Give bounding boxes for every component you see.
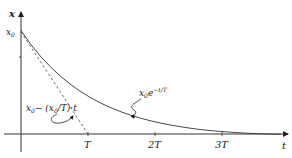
y-intercept-label: x0 [6,27,15,38]
x-axis-label: t [282,140,287,151]
tick-label-T: T [84,139,92,150]
tick-label-3T: 3T [215,139,229,150]
y-axis-label: x [8,8,16,19]
tangent-line [21,32,88,134]
curve-label: x0e−t/T [139,86,168,99]
curve-label-pointer [132,99,141,118]
tangent-label: x0− (x0/T)·t [26,103,77,114]
tick-label-2T: 2T [147,139,162,150]
tangent-label-pointer [51,114,73,123]
exponential-curve [21,31,281,135]
exponential-decay-diagram: T 2T 3T x t x0 x0e−t/T x0− (x0/T)·t [0,0,292,158]
